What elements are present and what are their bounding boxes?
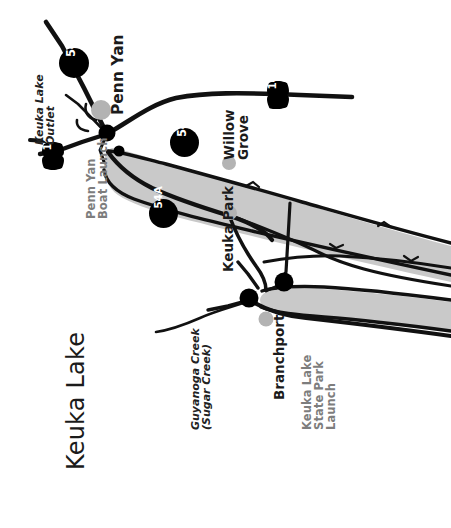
launch-marker-penn-yan-boat-launch — [114, 146, 125, 157]
route-shield-54a-label: 54A — [152, 186, 163, 208]
town-label-willow-grove: Willow Grove — [222, 109, 250, 160]
lake-waterbody — [104, 148, 451, 330]
keuka-lake-map: 54 54 54A 14A 14A Keuka Lake Penn Yan Wi… — [0, 0, 451, 528]
stream-guyanoga-creek — [156, 300, 252, 332]
route-shield-54-mid[interactable]: 54 — [170, 128, 199, 157]
route-shield-54-north[interactable]: 54 — [59, 48, 89, 78]
water-label-guyanoga-creek: Guyanoga Creek (Sugar Creek) — [190, 328, 213, 430]
launch-marker-state-park — [240, 289, 259, 308]
route-shield-14a-west[interactable]: 14A — [39, 142, 67, 170]
launch-label-state-park: Keuka Lake State Park Launch — [302, 355, 338, 430]
route-shield-14a-east[interactable]: 14A — [264, 81, 292, 109]
town-label-keuka-park: Keuka Park — [221, 186, 235, 272]
route-shield-54-north-label: 54 — [66, 41, 78, 57]
route-shield-54-mid-label: 54 — [177, 121, 189, 137]
route-shield-54a[interactable]: 54A — [149, 199, 178, 228]
launch-marker-state-park-east — [275, 273, 294, 292]
town-label-branchport: Branchport — [272, 315, 286, 400]
road-penn-yan-spur3 — [77, 120, 88, 131]
map-title: Keuka Lake — [64, 332, 89, 470]
water-label-keuka-lake-outlet: Keuka Lake Outlet — [34, 74, 57, 145]
launch-label-penn-yan-boat-launch: Penn Yan Boat Launch — [86, 138, 110, 220]
route-shield-14a-east-label: 14A — [267, 67, 278, 89]
town-marker-penn-yan — [91, 100, 111, 120]
town-label-penn-yan: Penn Yan — [110, 34, 126, 115]
